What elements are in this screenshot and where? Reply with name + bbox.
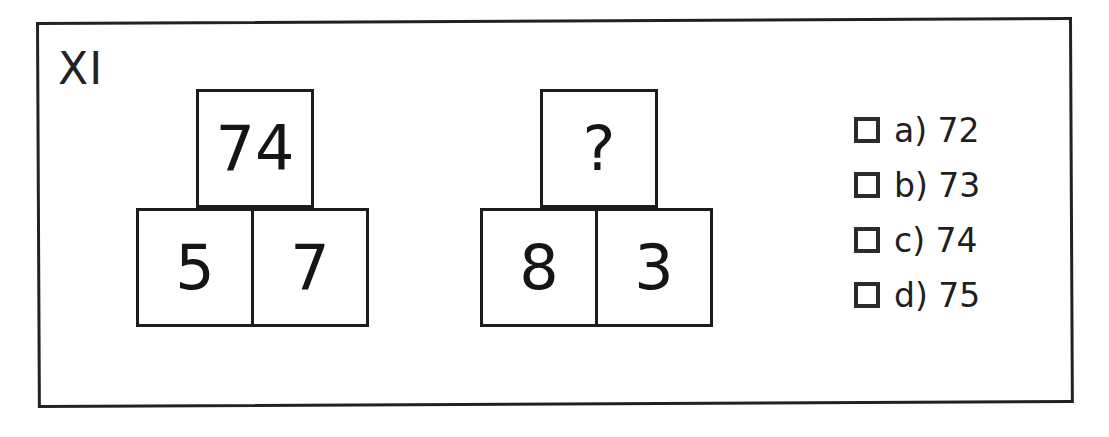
answer-option-c[interactable]: c) 74 (854, 222, 980, 258)
answer-option-d[interactable]: d) 75 (854, 277, 980, 313)
query-pyramid-bottom-row: 8 3 (480, 208, 713, 327)
answer-option-b-label: b) 73 (894, 169, 980, 202)
query-pyramid-bottom-left-block: 8 (480, 208, 598, 327)
empty-checkbox-icon[interactable] (854, 117, 880, 143)
example-pyramid-bottom-row: 5 7 (136, 208, 369, 327)
query-pyramid-top-row: ? (540, 89, 658, 208)
example-pyramid-bottom-left-block: 5 (136, 208, 254, 327)
answer-option-a[interactable]: a) 72 (854, 112, 980, 148)
answer-option-c-label: c) 74 (894, 224, 978, 257)
example-pyramid-top-row: 74 (196, 89, 314, 208)
answer-option-a-label: a) 72 (894, 114, 980, 147)
answer-option-b[interactable]: b) 73 (854, 167, 980, 203)
answer-options-list: a) 72 b) 73 c) 74 d) 75 (854, 112, 980, 313)
empty-checkbox-icon[interactable] (854, 172, 880, 198)
example-pyramid-top-block: 74 (196, 89, 314, 208)
query-pyramid-top-block: ? (540, 89, 658, 208)
empty-checkbox-icon[interactable] (854, 227, 880, 253)
query-pyramid-bottom-right-block: 3 (595, 208, 713, 327)
example-pyramid-bottom-right-block: 7 (251, 208, 369, 327)
question-number: XI (58, 47, 103, 91)
answer-option-d-label: d) 75 (894, 279, 980, 312)
empty-checkbox-icon[interactable] (854, 282, 880, 308)
